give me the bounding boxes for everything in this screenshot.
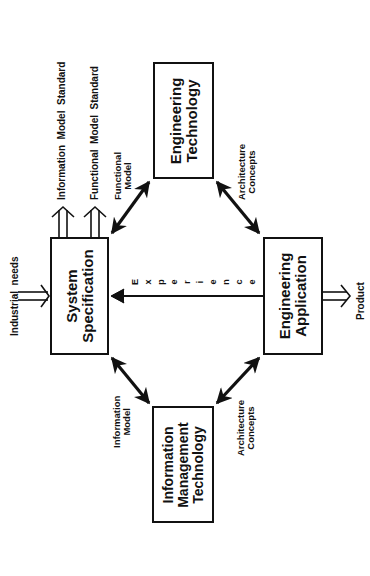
- information-model-standard-label: Information Model Standard: [56, 62, 67, 200]
- experience-letter: i: [195, 278, 205, 286]
- architecture-concepts-bottom-arrow: [217, 358, 259, 403]
- engineering-application-box: Engineering Application: [263, 237, 323, 355]
- information-management-technology-label: Information Management Technology: [161, 422, 206, 508]
- experience-letter: e: [247, 278, 257, 286]
- architecture-concepts-top-label: Architecture Concepts: [237, 144, 257, 200]
- system-specification-box: System Specification: [50, 237, 109, 355]
- experience-letter: e: [208, 278, 218, 286]
- functional-model-label: Functional Model: [113, 152, 133, 200]
- product-arrow: [322, 285, 350, 307]
- functional-model-standard-label: Functional Model Standard: [89, 66, 100, 200]
- experience-letter: n: [221, 278, 231, 286]
- experience-arrow: [111, 289, 263, 303]
- information-model-standard-arrow: [52, 207, 74, 237]
- engineering-technology-label: Engineering Technology: [168, 77, 200, 164]
- experience-letter: x: [143, 278, 153, 286]
- experience-letter: p: [156, 278, 166, 286]
- engineering-application-label: Engineering Application: [277, 253, 309, 340]
- industrial-needs-arrow: [18, 285, 49, 307]
- information-model-label: Information Model: [112, 396, 132, 448]
- industrial-needs-label: Industrial needs: [9, 257, 20, 336]
- experience-letter: r: [182, 278, 192, 286]
- experience-letter: c: [234, 278, 244, 286]
- system-specification-label: System Specification: [64, 249, 96, 342]
- experience-letter: e: [169, 278, 179, 286]
- engineering-technology-box: Engineering Technology: [153, 62, 214, 179]
- architecture-concepts-bottom-label: Architecture Concepts: [236, 400, 256, 456]
- product-label: Product: [355, 282, 366, 320]
- information-management-technology-box: Information Management Technology: [152, 406, 214, 523]
- functional-model-standard-arrow: [84, 207, 106, 237]
- experience-letter: E: [130, 278, 140, 286]
